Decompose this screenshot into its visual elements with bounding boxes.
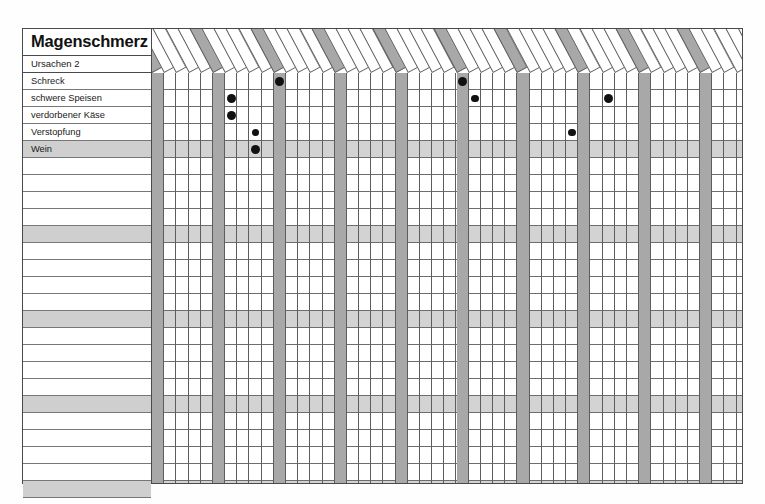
grid-column[interactable]: [176, 73, 188, 483]
grid-column[interactable]: [408, 73, 420, 483]
grid-column[interactable]: [444, 73, 456, 483]
row-label-blank[interactable]: [23, 379, 151, 396]
grid-column[interactable]: [737, 73, 742, 483]
grid-column[interactable]: [396, 73, 408, 483]
grid-column[interactable]: [164, 73, 176, 483]
grid-column[interactable]: [298, 73, 310, 483]
row-label-blank[interactable]: [23, 362, 151, 379]
grid-column[interactable]: [615, 73, 627, 483]
row-label-blank[interactable]: [23, 345, 151, 362]
row-label-blank[interactable]: [23, 158, 151, 175]
page-subtitle: Ursachen 2: [23, 56, 151, 73]
grid-column[interactable]: [700, 73, 712, 483]
remedy-mark-dot[interactable]: [251, 145, 260, 154]
remedy-header-band: Acon.All. c.Ant. t.ApisArn.Ars.Bell.Bry.…: [152, 29, 742, 73]
grid-column[interactable]: [651, 73, 663, 483]
grid-column[interactable]: [237, 73, 249, 483]
row-label-blank[interactable]: [23, 294, 151, 311]
symptom-label-column: Magenschmerz Ursachen 2 Schreckschwere S…: [23, 29, 152, 483]
grid-column[interactable]: [359, 73, 371, 483]
row-label-blank[interactable]: [23, 481, 151, 498]
grid-column[interactable]: [383, 73, 395, 483]
grid-column[interactable]: [201, 73, 213, 483]
grid-column[interactable]: [542, 73, 554, 483]
grid-column[interactable]: [481, 73, 493, 483]
row-label[interactable]: Verstopfung: [23, 124, 151, 141]
page-title: Magenschmerz: [23, 29, 151, 56]
row-label-blank[interactable]: [23, 192, 151, 209]
grid-column[interactable]: [420, 73, 432, 483]
grid-column[interactable]: [152, 73, 164, 483]
grid-column[interactable]: [517, 73, 529, 483]
grid-column[interactable]: [286, 73, 298, 483]
grid-column[interactable]: [189, 73, 201, 483]
grid-column[interactable]: [505, 73, 517, 483]
grid-column[interactable]: [457, 73, 469, 483]
remedy-mark-dot[interactable]: [227, 94, 236, 103]
grid-column[interactable]: [262, 73, 274, 483]
row-label-blank[interactable]: [23, 430, 151, 447]
grid-column[interactable]: [712, 73, 724, 483]
grid-body: [152, 73, 742, 483]
grid-column[interactable]: [554, 73, 566, 483]
row-label-blank[interactable]: [23, 447, 151, 464]
grid-column[interactable]: [578, 73, 590, 483]
row-label[interactable]: Schreck: [23, 73, 151, 90]
row-label-blank[interactable]: [23, 328, 151, 345]
row-label-blank[interactable]: [23, 396, 151, 413]
row-label[interactable]: schwere Speisen: [23, 90, 151, 107]
row-label-blank[interactable]: [23, 175, 151, 192]
repertory-sheet: Acon.All. c.Ant. t.ApisArn.Ars.Bell.Bry.…: [0, 0, 765, 504]
grid-column[interactable]: [347, 73, 359, 483]
grid-column[interactable]: [627, 73, 639, 483]
grid-column[interactable]: [688, 73, 700, 483]
row-label-blank[interactable]: [23, 311, 151, 328]
row-label-blank[interactable]: [23, 464, 151, 481]
row-label-blank[interactable]: [23, 226, 151, 243]
row-label-blank[interactable]: [23, 260, 151, 277]
grid-column[interactable]: [530, 73, 542, 483]
row-label-blank[interactable]: [23, 209, 151, 226]
grid-inner: [152, 73, 742, 483]
grid-column[interactable]: [274, 73, 286, 483]
remedy-mark-dot[interactable]: [458, 77, 467, 86]
grid-column[interactable]: [590, 73, 602, 483]
row-label[interactable]: verdorbener Käse: [23, 107, 151, 124]
grid-column[interactable]: [639, 73, 651, 483]
row-label-list: Schreckschwere Speisenverdorbener KäseVe…: [23, 73, 151, 498]
grid-column[interactable]: [664, 73, 676, 483]
grid-column[interactable]: [676, 73, 688, 483]
repertory-table: Acon.All. c.Ant. t.ApisArn.Ars.Bell.Bry.…: [22, 28, 743, 484]
grid-column[interactable]: [432, 73, 444, 483]
row-label-blank[interactable]: [23, 277, 151, 294]
grid-column[interactable]: [469, 73, 481, 483]
grid-column[interactable]: [225, 73, 237, 483]
grid-column[interactable]: [335, 73, 347, 483]
grid-column[interactable]: [493, 73, 505, 483]
grid-column[interactable]: [310, 73, 322, 483]
grid-column[interactable]: [371, 73, 383, 483]
grid-column[interactable]: [724, 73, 736, 483]
row-label-blank[interactable]: [23, 243, 151, 260]
row-label[interactable]: Wein: [23, 141, 151, 158]
row-label-blank[interactable]: [23, 413, 151, 430]
grid-column[interactable]: [603, 73, 615, 483]
grid-column[interactable]: [213, 73, 225, 483]
grid-column[interactable]: [323, 73, 335, 483]
remedy-mark-dot[interactable]: [471, 95, 479, 103]
remedy-mark-dot[interactable]: [227, 111, 236, 120]
